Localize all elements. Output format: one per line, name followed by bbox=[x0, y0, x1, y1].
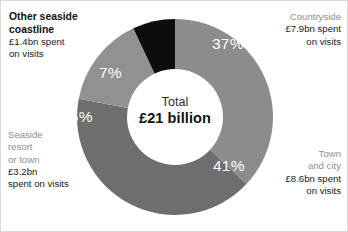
callout-seaside-resort: Seaside resort or town £3.2bn spent on v… bbox=[8, 129, 69, 190]
donut-chart-figure: 37% 41% 15% 7% Total £21 billion Country… bbox=[0, 0, 348, 232]
callout-other-category-line2: coastline bbox=[9, 23, 78, 36]
callout-seaside-category-line1: Seaside bbox=[8, 129, 69, 141]
callout-town-category-line1: Town bbox=[286, 148, 341, 160]
callout-other-amount-line1: £1.4bn spent bbox=[9, 36, 78, 48]
callout-other-seaside-coastline: Other seaside coastline £1.4bn spent on … bbox=[9, 10, 78, 61]
callout-countryside-amount-line1: £7.9bn spent bbox=[286, 23, 341, 35]
callout-countryside: Countryside £7.9bn spent on visits bbox=[286, 11, 341, 48]
callout-other-category-line1: Other seaside bbox=[9, 10, 78, 23]
donut-center-label: Total £21 billion bbox=[125, 96, 225, 126]
slice-percent-town-and-city: 41% bbox=[213, 158, 245, 174]
slice-percent-other-seaside: 7% bbox=[99, 65, 122, 81]
callout-town-amount-line1: £8.6bn spent bbox=[286, 173, 341, 185]
center-total-caption: Total bbox=[125, 96, 225, 110]
slice-percent-countryside: 37% bbox=[212, 36, 244, 52]
center-total-value: £21 billion bbox=[125, 111, 225, 127]
callout-countryside-amount-line2: on visits bbox=[286, 36, 341, 48]
callout-seaside-amount-line2: spent on visits bbox=[8, 178, 69, 190]
callout-seaside-amount-line1: £3.2bn bbox=[8, 166, 69, 178]
callout-town-category-line2: and city bbox=[286, 160, 341, 172]
callout-town-and-city: Town and city £8.6bn spent on visits bbox=[286, 148, 341, 197]
callout-town-amount-line2: on visits bbox=[286, 185, 341, 197]
callout-countryside-category: Countryside bbox=[286, 11, 341, 23]
callout-other-amount-line2: on visits bbox=[9, 48, 78, 60]
slice-percent-seaside-resort: 15% bbox=[61, 109, 93, 125]
callout-seaside-category-line2: resort bbox=[8, 141, 69, 153]
callout-seaside-category-line3: or town bbox=[8, 154, 69, 166]
